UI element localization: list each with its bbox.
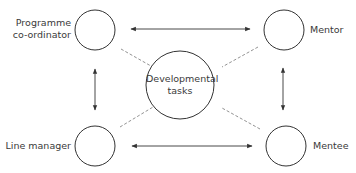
label-developmental-tasks: Developmental tasks (146, 73, 214, 97)
node-mentee-circle (266, 126, 306, 166)
node-mentor-circle (264, 10, 304, 50)
node-line-manager-circle (75, 126, 115, 166)
label-programme-coordinator-line2: co-ordinator (13, 29, 71, 41)
dashed-connector-linemanager-tasks (120, 104, 158, 127)
dashed-connector-mentor-tasks (222, 47, 258, 67)
label-line-manager: Line manager (5, 140, 71, 152)
label-programme-coordinator: Programme co-ordinator (13, 17, 71, 41)
label-developmental-tasks-line1: Developmental (146, 73, 214, 85)
label-mentor: Mentor (310, 24, 344, 36)
label-programme-coordinator-line1: Programme (13, 17, 71, 29)
label-developmental-tasks-line2: tasks (146, 85, 214, 97)
dashed-connector-mentee-tasks (222, 108, 260, 129)
label-mentee: Mentee (313, 140, 348, 152)
node-programme-coordinator-circle (75, 10, 115, 50)
